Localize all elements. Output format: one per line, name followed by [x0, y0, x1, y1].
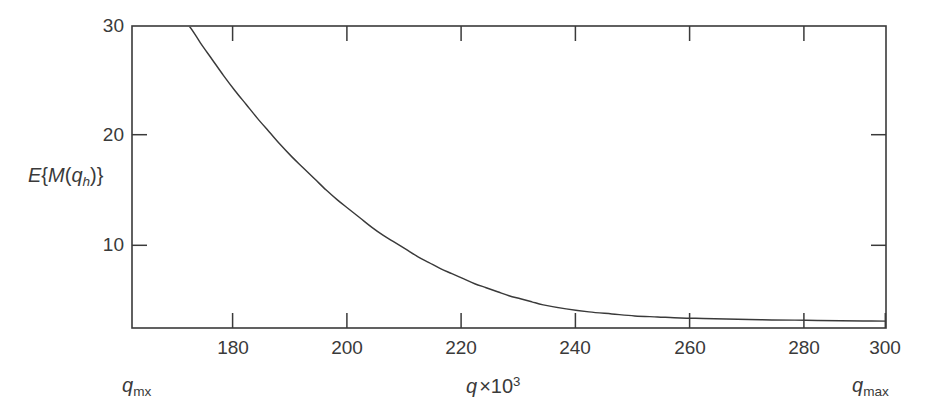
x-tick-label-220: 220 [430, 338, 492, 357]
data-series-line [166, 8, 886, 321]
x-tick-label-280: 280 [773, 338, 835, 357]
y-axis-title-M: M [48, 164, 65, 186]
endpoint-qmax-subscript: max [863, 384, 889, 399]
endpoint-qmx-subscript: mx [133, 384, 151, 399]
x-axis-title-exponent: 3 [513, 374, 520, 389]
x-tick-label-200: 200 [316, 338, 378, 357]
endpoint-label-qmx: qmx [122, 375, 151, 398]
x-tick-label-180: 180 [202, 338, 264, 357]
y-axis-title-subscript-h: h [83, 174, 91, 189]
endpoint-label-qmax: qmax [852, 375, 889, 398]
y-axis-ticks-right [871, 135, 886, 246]
x-axis-ticks-top [233, 26, 804, 41]
x-axis-title: q×103 [466, 375, 520, 396]
endpoint-qmax-q: q [852, 374, 863, 396]
x-tick-label-300: 300 [854, 338, 916, 357]
x-tick-label-240: 240 [544, 338, 606, 357]
axes-frame [132, 26, 886, 328]
y-tick-label-10: 10 [84, 235, 124, 254]
y-axis-title-E: E [28, 164, 41, 186]
x-axis-title-q: q [466, 375, 477, 397]
x-axis-title-times-ten: ×10 [477, 375, 513, 397]
y-axis-title: E{M(qh)} [28, 165, 103, 188]
y-tick-label-20: 20 [84, 125, 124, 144]
y-axis-title-q: q [71, 164, 82, 186]
y-axis-title-paren-close: ) [90, 164, 97, 186]
y-axis-title-brace-close: } [97, 164, 104, 186]
endpoint-qmx-q: q [122, 374, 133, 396]
figure-container: 30 20 10 E{M(qh)} 180 200 220 240 260 28… [0, 0, 926, 414]
x-tick-label-260: 260 [659, 338, 721, 357]
y-axis-ticks-left [132, 135, 147, 246]
y-tick-label-30: 30 [84, 16, 124, 35]
